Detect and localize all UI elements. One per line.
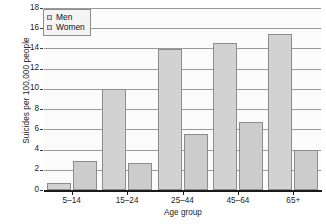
bar-women-4 — [294, 150, 318, 190]
x-axis-title: Age group — [44, 208, 322, 217]
bar-men-3 — [213, 43, 237, 190]
bar-men-2 — [158, 49, 182, 190]
x-axis-tick-label: 15–24 — [97, 196, 157, 205]
y-axis-tick-mark — [40, 129, 43, 130]
x-axis-tick-mark — [127, 192, 128, 195]
x-axis-tick-mark — [293, 192, 294, 195]
y-axis-tick-mark — [40, 109, 43, 110]
y-axis-tick-mark — [40, 48, 43, 49]
x-axis-tick-mark — [72, 192, 73, 195]
y-axis-tick-mark — [40, 150, 43, 151]
y-axis-tick-label: 0 — [34, 186, 39, 194]
y-axis-tick-label: 18 — [30, 4, 39, 12]
y-axis-tick-mark — [40, 89, 43, 90]
bar-women-2 — [184, 134, 208, 190]
y-axis-tick-mark — [40, 69, 43, 70]
x-axis-tick-label: 65+ — [263, 196, 323, 205]
x-axis-tick-mark — [238, 192, 239, 195]
legend-label-women: Women — [56, 22, 85, 32]
bar-women-3 — [239, 122, 263, 190]
bar-chart-figure: Suicides per 100,000 people Age group Me… — [0, 0, 326, 224]
legend-label-men: Men — [56, 12, 72, 22]
legend-item-women: Women — [47, 22, 85, 32]
bar-women-0 — [73, 161, 97, 190]
chart-legend: Men Women — [43, 9, 91, 36]
y-axis-tick-label: 2 — [34, 165, 39, 173]
legend-swatch-women-icon — [47, 25, 52, 30]
y-axis-tick-label: 16 — [30, 24, 39, 32]
legend-swatch-men-icon — [47, 15, 52, 20]
y-axis-tick-label: 14 — [30, 44, 39, 52]
bar-men-1 — [102, 89, 126, 190]
bar-women-1 — [128, 163, 152, 190]
y-axis-tick-mark — [40, 8, 43, 9]
legend-item-men: Men — [47, 12, 85, 22]
y-axis-tick-label: 10 — [30, 84, 39, 92]
x-axis-tick-mark — [183, 192, 184, 195]
bar-men-0 — [47, 183, 71, 190]
y-axis-tick-label: 12 — [30, 64, 39, 72]
bar-men-4 — [268, 34, 292, 190]
x-axis-tick-label: 5–14 — [42, 196, 102, 205]
y-axis-tick-mark — [40, 28, 43, 29]
x-axis-tick-label: 25–44 — [153, 196, 213, 205]
y-axis-tick-mark — [40, 170, 43, 171]
x-axis-tick-label: 45–64 — [208, 196, 268, 205]
y-axis-tick-mark — [40, 190, 43, 191]
y-axis-tick-label: 8 — [34, 105, 39, 113]
y-axis-tick-label: 4 — [34, 145, 39, 153]
y-axis-tick-label: 6 — [34, 125, 39, 133]
